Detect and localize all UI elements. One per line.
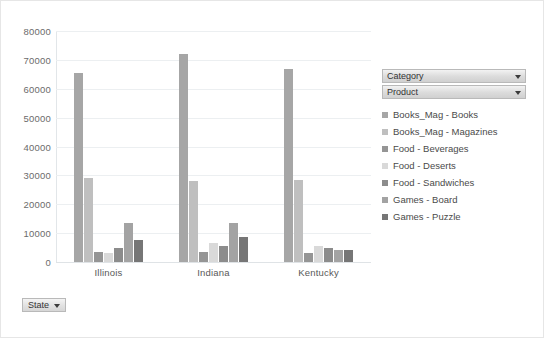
- y-axis-tick-label: 60000: [3, 83, 51, 94]
- bar[interactable]: [84, 178, 93, 262]
- legend-swatch-icon: [382, 112, 388, 118]
- legend-item: Games - Board: [382, 191, 526, 208]
- bar[interactable]: [229, 223, 238, 262]
- legend-item-label: Books_Mag - Books: [393, 109, 478, 120]
- bar[interactable]: [134, 240, 143, 262]
- plot-area: [56, 31, 371, 262]
- chevron-down-icon: [515, 91, 521, 95]
- legend-swatch-icon: [382, 197, 388, 203]
- filter-button-product-label: Product: [387, 87, 418, 97]
- legend-swatch-icon: [382, 163, 388, 169]
- filter-button-category[interactable]: Category: [382, 69, 526, 83]
- legend-items: Books_Mag - BooksBooks_Mag - MagazinesFo…: [382, 106, 526, 225]
- legend-item-label: Books_Mag - Magazines: [393, 126, 498, 137]
- legend-item: Books_Mag - Books: [382, 106, 526, 123]
- legend-swatch-icon: [382, 180, 388, 186]
- legend-item-label: Games - Puzzle: [393, 211, 461, 222]
- bar[interactable]: [314, 246, 323, 262]
- y-axis-tick-labels: 8000070000600005000040000300002000010000…: [1, 31, 51, 262]
- bar[interactable]: [284, 69, 293, 262]
- legend-item-label: Food - Deserts: [393, 160, 456, 171]
- legend-item: Food - Beverages: [382, 140, 526, 157]
- bar[interactable]: [179, 54, 188, 262]
- bar[interactable]: [189, 181, 198, 262]
- bar[interactable]: [219, 246, 228, 262]
- legend-swatch-icon: [382, 146, 388, 152]
- bar[interactable]: [334, 250, 343, 262]
- filter-button-product[interactable]: Product: [382, 85, 526, 99]
- x-axis-category-label: Illinois: [56, 267, 161, 278]
- chevron-down-icon: [54, 304, 60, 308]
- y-axis-tick-label: 40000: [3, 141, 51, 152]
- x-axis-category-labels: IllinoisIndianaKentucky: [56, 267, 371, 278]
- y-axis-tick-label: 50000: [3, 112, 51, 123]
- filter-button-state-label: State: [28, 300, 49, 310]
- bar-group: [266, 31, 371, 262]
- legend-item: Food - Sandwiches: [382, 174, 526, 191]
- bar[interactable]: [304, 253, 313, 262]
- x-axis-category-label: Indiana: [161, 267, 266, 278]
- legend-panel: Category Product Books_Mag - BooksBooks_…: [382, 69, 526, 225]
- legend-item-label: Food - Beverages: [393, 143, 469, 154]
- chevron-down-icon: [515, 75, 521, 79]
- legend-item-label: Food - Sandwiches: [393, 177, 474, 188]
- bar[interactable]: [199, 252, 208, 262]
- filter-button-state[interactable]: State: [22, 298, 66, 312]
- bar[interactable]: [239, 237, 248, 262]
- bar[interactable]: [124, 223, 133, 262]
- bar[interactable]: [294, 180, 303, 262]
- bar[interactable]: [324, 248, 333, 262]
- y-axis-tick-label: 30000: [3, 170, 51, 181]
- filter-button-category-label: Category: [387, 71, 424, 81]
- y-axis-tick-label: 20000: [3, 199, 51, 210]
- bar-groups: [56, 31, 371, 262]
- bar[interactable]: [104, 253, 113, 262]
- y-axis-tick-label: 80000: [3, 26, 51, 37]
- legend-item-label: Games - Board: [393, 194, 457, 205]
- gridline: [56, 262, 371, 263]
- bar[interactable]: [74, 73, 83, 262]
- legend-item: Games - Puzzle: [382, 208, 526, 225]
- bar[interactable]: [114, 248, 123, 262]
- y-axis-tick-label: 10000: [3, 228, 51, 239]
- pivot-chart-object: 8000070000600005000040000300002000010000…: [0, 0, 544, 338]
- legend-swatch-icon: [382, 214, 388, 220]
- bar[interactable]: [94, 252, 103, 262]
- legend-item: Food - Deserts: [382, 157, 526, 174]
- y-axis-tick-label: 0: [3, 257, 51, 268]
- bar[interactable]: [344, 250, 353, 262]
- bar-group: [161, 31, 266, 262]
- bar[interactable]: [209, 243, 218, 262]
- legend-item: Books_Mag - Magazines: [382, 123, 526, 140]
- legend-swatch-icon: [382, 129, 388, 135]
- bar-group: [56, 31, 161, 262]
- y-axis-tick-label: 70000: [3, 54, 51, 65]
- x-axis-category-label: Kentucky: [266, 267, 371, 278]
